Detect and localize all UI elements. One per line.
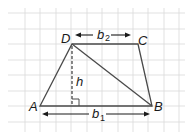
right-angle-marker	[72, 99, 79, 106]
trapezoid-diagram: D C A B h b 2 b 1	[0, 0, 187, 139]
vertex-label-c: C	[138, 33, 148, 48]
base2-subscript: 2	[105, 33, 110, 43]
vertex-label-a: A	[28, 99, 38, 114]
diagram-canvas: D C A B h b 2 b 1	[0, 0, 187, 139]
base2-label: b	[97, 27, 104, 42]
base1-subscript: 1	[100, 113, 105, 123]
base1-label: b	[92, 106, 99, 121]
height-label: h	[76, 74, 83, 89]
vertex-label-b: B	[154, 99, 163, 114]
vertex-label-d: D	[61, 31, 70, 46]
